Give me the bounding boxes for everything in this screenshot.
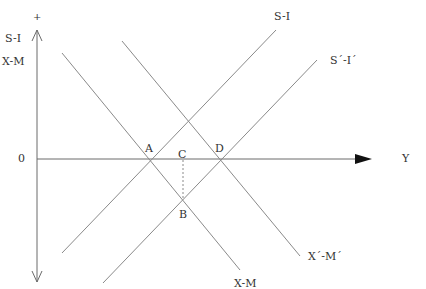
diagram-canvas bbox=[0, 0, 426, 289]
point-label-d: D bbox=[215, 143, 224, 154]
x-axis-label-y: Y bbox=[402, 153, 409, 164]
point-label-c: C bbox=[178, 149, 186, 160]
right-arrow-icon bbox=[355, 154, 372, 164]
curve-label-x-m: X-M bbox=[234, 278, 256, 289]
clipped-title bbox=[95, 0, 335, 3]
x-m-curve bbox=[62, 53, 240, 270]
y-axis-label-s-i: S-I bbox=[5, 33, 21, 44]
s-i-prime-curve bbox=[103, 60, 317, 283]
curve-label-s-i-prime: S´-I´ bbox=[330, 55, 357, 66]
curve-label-s-i: S-I bbox=[274, 11, 290, 22]
point-label-b: B bbox=[179, 209, 187, 220]
curve-label-x-m-prime: X´-M´ bbox=[308, 251, 342, 262]
y-axis-plus-sign: + bbox=[33, 12, 41, 22]
origin-label: 0 bbox=[18, 153, 25, 164]
y-axis-label-x-m: X-M bbox=[2, 56, 24, 67]
s-i-curve bbox=[62, 30, 276, 253]
point-label-a: A bbox=[145, 143, 153, 154]
